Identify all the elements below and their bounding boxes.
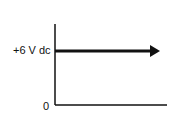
y-label-6v: +6 V dc [13,45,51,56]
dc-voltage-chart [0,0,176,121]
y-label-zero: 0 [43,101,49,112]
arrowhead-icon [150,45,160,57]
